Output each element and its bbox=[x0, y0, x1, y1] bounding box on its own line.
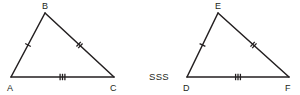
side-ef bbox=[218, 13, 289, 77]
congruence-criterion-label: SSS bbox=[149, 71, 169, 82]
vertex-label-b: B bbox=[42, 1, 48, 11]
vertex-label-a: A bbox=[7, 83, 13, 93]
geometry-figure: ABC DEF SSS bbox=[0, 0, 300, 95]
vertex-label-c: C bbox=[110, 83, 117, 93]
vertex-label-f: F bbox=[285, 83, 291, 93]
side-bc bbox=[45, 13, 114, 77]
triangle-def: DEF bbox=[183, 1, 291, 93]
triangle-congruence-diagram: ABC DEF SSS bbox=[0, 0, 300, 95]
vertex-label-d: D bbox=[183, 83, 190, 93]
triangle-abc: ABC bbox=[7, 1, 117, 93]
vertex-label-e: E bbox=[215, 1, 221, 11]
